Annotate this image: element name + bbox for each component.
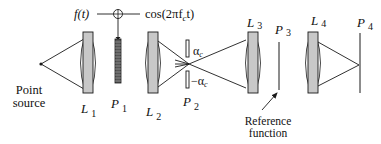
point-source xyxy=(39,39,84,89)
lens-L1 xyxy=(81,32,96,93)
label-P3: P3 xyxy=(274,22,291,38)
reference-label-line2: function xyxy=(249,127,288,139)
label-L4: L4 xyxy=(310,13,326,29)
input-signal-label: f(t) xyxy=(74,7,89,21)
alpha-negative-label: −αc xyxy=(191,74,208,89)
label-P1: P1 xyxy=(110,96,127,114)
grating-P1 xyxy=(115,39,121,83)
point-source-label-line2: source xyxy=(13,96,46,110)
label-P4: P4 xyxy=(356,15,373,32)
summing-junction-icon xyxy=(114,10,123,19)
lens-L3 xyxy=(246,32,261,93)
optical-system-diagram: Point source L1 f(t) cos(2πfct) P1 xyxy=(0,0,381,144)
lens-L4 xyxy=(306,32,321,93)
alpha-positive-label: αc xyxy=(193,44,203,59)
rays-L4-to-P4 xyxy=(318,42,359,86)
reference-arrow-icon xyxy=(262,93,277,110)
label-P2: P2 xyxy=(182,94,199,112)
label-L1: L1 xyxy=(80,101,96,119)
reference-label-line1: Reference xyxy=(245,115,292,127)
label-L2: L2 xyxy=(145,104,161,122)
carrier-label: cos(2πfct) xyxy=(145,7,194,23)
rays-L2-to-P2 xyxy=(158,41,189,87)
label-L3: L3 xyxy=(246,15,262,31)
point-source-label-line1: Point xyxy=(16,83,43,97)
